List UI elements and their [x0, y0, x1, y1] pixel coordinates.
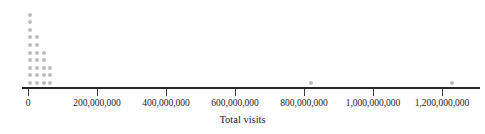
data-point-dot — [28, 66, 32, 70]
x-axis-tick — [235, 89, 236, 96]
x-axis-tick-label: 1,000,000,000 — [346, 97, 401, 109]
x-axis-tick-label: 200,000,000 — [73, 97, 121, 109]
data-point-dot — [28, 43, 32, 47]
x-axis-tick-label: 400,000,000 — [142, 97, 190, 109]
data-point-dot — [450, 81, 454, 85]
data-point-dot — [28, 51, 32, 55]
data-point-dot — [309, 81, 313, 85]
x-axis-title: Total visits — [0, 113, 485, 126]
x-axis-tick — [166, 89, 167, 96]
data-point-dot — [42, 51, 46, 55]
x-axis-tick-label: 0 — [26, 97, 31, 109]
x-axis-tick-label: 800,000,000 — [280, 97, 328, 109]
dot-plot-chart: 0200,000,000400,000,000600,000,000800,00… — [0, 0, 485, 134]
data-point-dot — [28, 20, 32, 24]
data-point-dot — [35, 66, 39, 70]
x-axis-tick — [442, 89, 443, 96]
x-axis-tick — [304, 89, 305, 96]
data-point-dot — [28, 28, 32, 32]
data-point-dot — [48, 66, 52, 70]
data-point-dot — [48, 81, 52, 85]
data-point-dot — [42, 58, 46, 62]
x-axis-tick-label: 1,200,000,000 — [415, 97, 470, 109]
x-axis-tick — [373, 89, 374, 96]
data-point-dot — [28, 58, 32, 62]
data-point-dot — [35, 43, 39, 47]
x-axis-line — [22, 87, 480, 89]
data-point-dot — [28, 13, 32, 17]
x-axis-tick — [97, 89, 98, 96]
x-axis-tick-label: 600,000,000 — [211, 97, 259, 109]
x-axis-tick — [28, 89, 29, 96]
data-point-dot — [35, 58, 39, 62]
data-point-dot — [35, 35, 39, 39]
data-point-dot — [35, 51, 39, 55]
data-point-dot — [28, 35, 32, 39]
data-point-dot — [42, 81, 46, 85]
data-point-dot — [42, 66, 46, 70]
data-point-dot — [35, 73, 39, 77]
data-point-dot — [28, 73, 32, 77]
data-point-dot — [42, 73, 46, 77]
data-point-dot — [35, 81, 39, 85]
data-point-dot — [28, 81, 32, 85]
data-point-dot — [48, 73, 52, 77]
